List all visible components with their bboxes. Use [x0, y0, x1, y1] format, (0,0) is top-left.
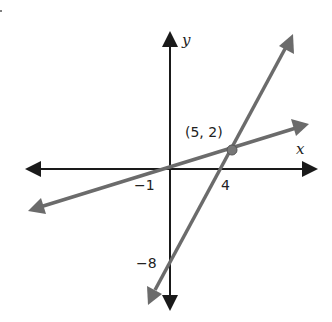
coordinate-diagram: y x (5, 2) −1 4 −8 [0, 0, 332, 322]
graph-svg: y x (5, 2) −1 4 −8 [0, 0, 332, 322]
x-axis [25, 161, 318, 177]
tick-label-4: 4 [221, 177, 230, 193]
shallow-line-right-arrow-icon [291, 119, 309, 136]
x-axis-label: x [296, 140, 305, 158]
x-axis-left-arrow-icon [25, 161, 41, 177]
shallow-line [28, 119, 309, 214]
steep-line-up-arrow-icon [279, 34, 294, 54]
intersection-point [227, 145, 237, 155]
y-axis-down-arrow-icon [162, 295, 178, 311]
tick-label-neg1: −1 [134, 177, 155, 193]
intersection-label: (5, 2) [185, 124, 223, 140]
x-axis-right-arrow-icon [302, 161, 318, 177]
tick-label-neg8: −8 [136, 255, 157, 271]
shallow-line-left-arrow-icon [28, 198, 46, 214]
speck [0, 10, 2, 12]
y-axis-label: y [181, 31, 191, 49]
y-axis-up-arrow-icon [162, 31, 178, 47]
